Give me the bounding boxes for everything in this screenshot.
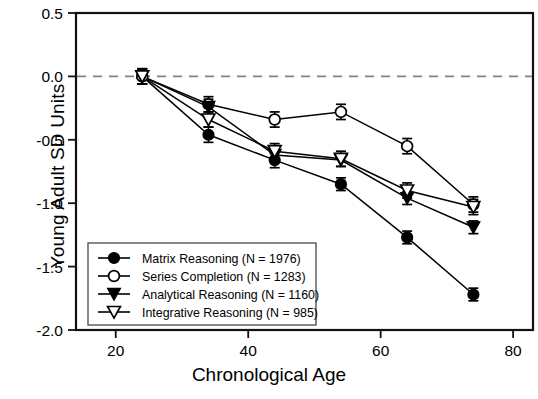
y-tick-label: 0.5	[41, 5, 63, 22]
marker-filled-circle	[402, 232, 413, 243]
x-axis-title: Chronological Age	[0, 364, 538, 386]
marker-open-circle	[109, 271, 120, 282]
legend-item-label: Series Completion (N = 1283)	[142, 270, 306, 284]
series-markers-open-circle	[137, 71, 479, 210]
marker-filled-circle	[109, 253, 120, 264]
series-open-circle	[137, 69, 478, 212]
series-open-triangle-down	[137, 69, 478, 215]
x-tick-label: 60	[372, 342, 390, 359]
series-filled-triangle-down	[137, 69, 478, 234]
chart-legend: Matrix Reasoning (N = 1976)Series Comple…	[88, 243, 319, 325]
chart-canvas: 20406080 0.50.0-0.5-1.0-1.5-2.0 Matrix R…	[0, 0, 538, 399]
legend-item-label: Integrative Reasoning (N = 985)	[142, 306, 318, 320]
figure: 20406080 0.50.0-0.5-1.0-1.5-2.0 Matrix R…	[0, 0, 538, 399]
marker-open-circle	[269, 114, 280, 125]
x-axis-ticks: 20406080	[107, 330, 522, 359]
series-markers-open-triangle-down	[136, 71, 480, 213]
marker-filled-circle	[336, 179, 347, 190]
y-axis-title: Young Adult SD Units	[47, 26, 69, 326]
x-tick-label: 80	[505, 342, 523, 359]
marker-open-circle	[402, 141, 413, 152]
x-tick-label: 20	[107, 342, 125, 359]
x-tick-label: 40	[240, 342, 258, 359]
series-line	[142, 76, 473, 207]
series-line	[142, 76, 473, 204]
legend-item-label: Analytical Reasoning (N = 1160)	[142, 288, 319, 302]
marker-filled-circle	[203, 129, 214, 140]
legend-item-label: Matrix Reasoning (N = 1976)	[142, 252, 301, 266]
marker-open-triangle	[202, 114, 215, 126]
marker-filled-triangle	[467, 222, 480, 234]
marker-open-circle	[336, 107, 347, 118]
marker-filled-circle	[468, 289, 479, 300]
series-line	[142, 76, 473, 227]
